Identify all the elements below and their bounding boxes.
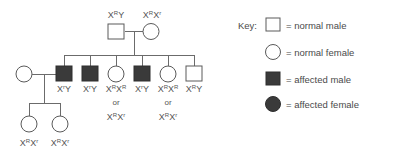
g3-child-1-normal-female-circle[interactable] bbox=[21, 116, 37, 132]
generation-1-group: XRY XRXr bbox=[108, 10, 161, 55]
g2-child-3-normal-female-circle[interactable] bbox=[108, 66, 124, 82]
g3-child-1-genotype: XRXr bbox=[20, 138, 38, 148]
g2-child-5-or-word: or bbox=[164, 98, 171, 107]
key-title: Key: bbox=[238, 20, 257, 31]
key-normal-male-text: = normal male bbox=[286, 20, 346, 31]
pedigree-diagram: XRY XRXr XrY XrY XRXR or XRXr XrY bbox=[0, 0, 393, 162]
g2-child-4-affected-male-square[interactable] bbox=[134, 66, 150, 81]
generation-3-group: XRXr XRXr bbox=[20, 103, 69, 148]
g3-child-2-normal-female-circle[interactable] bbox=[52, 116, 68, 132]
key-normal-female-circle bbox=[266, 45, 281, 60]
g2-child-6-genotype: XRY bbox=[186, 84, 202, 94]
key-normal-female-text: = normal female bbox=[286, 47, 354, 58]
g2-child-3-or-word: or bbox=[112, 98, 119, 107]
g2-child-1-genotype: XrY bbox=[57, 84, 71, 94]
key-legend: Key: = normal male = normal female = aff… bbox=[238, 18, 359, 112]
g2-spouse-circle[interactable] bbox=[16, 66, 32, 82]
g2-child-3-alt-genotype: XRXr bbox=[107, 112, 125, 122]
g2-child-4-genotype: XrY bbox=[135, 84, 149, 94]
g3-child-2-genotype: XRXr bbox=[51, 138, 69, 148]
key-affected-female-text: = affected female bbox=[286, 99, 359, 110]
g1-mother-circle[interactable] bbox=[143, 24, 159, 40]
key-normal-male-square bbox=[266, 18, 280, 31]
generation-2-sibship-bar bbox=[64, 55, 194, 67]
g1-father-square[interactable] bbox=[108, 24, 124, 39]
g2-child-5-alt-genotype: XRXr bbox=[159, 112, 177, 122]
g2-child-2-affected-male-square[interactable] bbox=[82, 66, 98, 81]
generation-2-group: XrY XrY XRXR or XRXr XrY XRXR or XRXr XR… bbox=[16, 66, 202, 122]
g2-child-2-genotype: XrY bbox=[83, 84, 97, 94]
g2-child-6-normal-male-square[interactable] bbox=[186, 66, 202, 81]
key-affected-male-text: = affected male bbox=[286, 74, 351, 85]
key-affected-male-square bbox=[266, 72, 280, 85]
g2-child-5-genotype: XRXR bbox=[158, 84, 179, 94]
g1-mother-genotype: XRXr bbox=[143, 10, 161, 20]
g2-child-5-normal-female-circle[interactable] bbox=[160, 66, 176, 82]
key-affected-female-circle bbox=[266, 97, 281, 112]
g1-father-genotype: XRY bbox=[108, 10, 124, 20]
g2-child-1-affected-male-square[interactable] bbox=[56, 66, 72, 81]
g2-child-3-genotype: XRXR bbox=[106, 84, 127, 94]
